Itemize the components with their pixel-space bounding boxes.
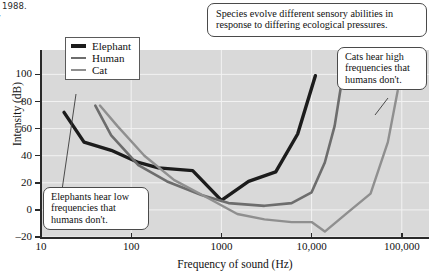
callout-elephants: Elephants hear low frequencies that huma… <box>43 187 149 230</box>
callout-species: Species evolve different sensory abiliti… <box>207 3 427 37</box>
callout-leader-lines <box>0 0 429 280</box>
callout-cats: Cats hear high frequencies that humans d… <box>337 47 427 90</box>
figure-hearing-ranges: ay, 1988. Fay d –20020406080100 10100100… <box>0 0 429 280</box>
